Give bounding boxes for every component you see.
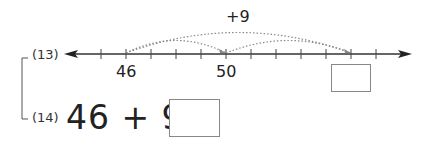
tick-label-50: 50 — [216, 62, 236, 81]
equation-answer-box[interactable] — [169, 99, 220, 137]
jump-label: +9 — [226, 7, 250, 26]
problem-13-number: (13) — [32, 47, 59, 62]
tick-label-46: 46 — [116, 62, 136, 81]
problem-14-number: (14) — [32, 110, 59, 125]
arrowhead-icon — [219, 49, 226, 53]
number-line-answer-box[interactable] — [331, 64, 371, 92]
bracket — [22, 58, 28, 119]
jump-46-55 — [126, 33, 351, 54]
jump-arcs — [126, 33, 351, 54]
